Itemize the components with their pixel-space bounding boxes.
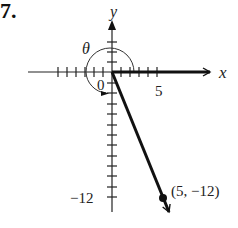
y-axis-arrow-icon	[108, 20, 116, 30]
x-axis-label: x	[218, 63, 227, 82]
origin-label: 0	[97, 77, 105, 93]
y-tick-label-neg12: −12	[70, 190, 93, 206]
point-label: (5, −12)	[171, 183, 219, 200]
x-tick-label-5: 5	[155, 83, 163, 99]
angle-diagram: y x θ 0 5 −12 (5, −12)	[0, 0, 238, 228]
y-axis-label: y	[108, 3, 118, 21]
point-marker	[159, 194, 167, 202]
angle-theta-label: θ	[82, 40, 90, 57]
